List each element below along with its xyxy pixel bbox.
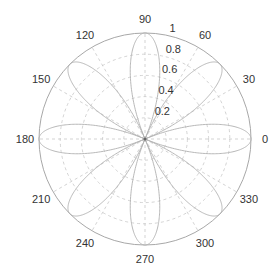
- center-point: [144, 138, 147, 141]
- angle-label-0: 0: [262, 133, 268, 145]
- angle-label-210: 210: [32, 193, 50, 205]
- angle-label-270: 270: [136, 253, 154, 265]
- angle-label-180: 180: [16, 133, 34, 145]
- r-label-4: 1: [169, 22, 175, 34]
- r-label-2: 0.6: [162, 63, 177, 75]
- angle-label-330: 330: [240, 193, 258, 205]
- polar-chart: 03060901201501802102402703003300.20.40.6…: [0, 0, 278, 280]
- r-label-1: 0.4: [158, 84, 173, 96]
- r-label-3: 0.8: [166, 43, 181, 55]
- angle-label-240: 240: [76, 237, 94, 249]
- angle-label-150: 150: [32, 73, 50, 85]
- r-label-0: 0.2: [155, 105, 170, 117]
- angle-label-300: 300: [196, 237, 214, 249]
- angle-label-30: 30: [243, 73, 255, 85]
- angle-label-90: 90: [139, 13, 151, 25]
- angle-label-60: 60: [199, 29, 211, 41]
- angle-label-120: 120: [76, 29, 94, 41]
